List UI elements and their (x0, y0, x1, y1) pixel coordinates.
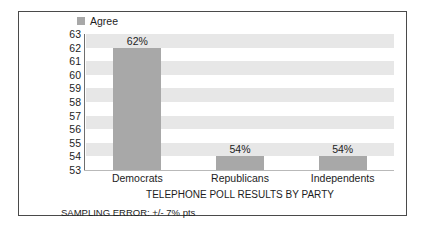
bar-value-label: 62% (127, 36, 148, 47)
legend-item-label: Agree (90, 16, 118, 27)
y-axis-tick: 60 (69, 70, 81, 81)
bar-independents[interactable] (319, 156, 367, 170)
y-axis-tick: 53 (69, 165, 81, 176)
bar-value-label: 54% (332, 144, 353, 155)
y-axis-tick: 54 (69, 151, 81, 162)
bar-democrats[interactable] (113, 48, 161, 170)
x-axis-baseline (84, 170, 394, 171)
agree-swatch-icon (77, 17, 85, 25)
x-axis-tick-democrats: Democrats (112, 173, 163, 184)
bars-layer: 62%54%54% (86, 34, 394, 170)
y-axis-tick: 63 (69, 29, 81, 40)
y-axis-tick: 56 (69, 124, 81, 135)
bar-republicans[interactable] (216, 156, 264, 170)
y-axis-tick: 59 (69, 83, 81, 94)
y-axis-tick: 61 (69, 56, 81, 67)
bar-value-label: 54% (229, 144, 250, 155)
x-axis-tick-independents: Independents (311, 173, 375, 184)
y-axis-tick: 62 (69, 42, 81, 53)
bar-slot (86, 34, 189, 170)
y-axis-tick-labels: 6362616059585756555453 (61, 34, 81, 170)
x-axis-tick-republicans: Republicans (211, 173, 269, 184)
chart-footnote: SAMPLING ERROR: +/- 7% pts (61, 208, 195, 218)
y-axis-tick: 58 (69, 97, 81, 108)
y-axis-tick: 55 (69, 138, 81, 149)
y-axis-tick: 57 (69, 110, 81, 121)
x-axis-tick-labels: DemocratsRepublicansIndependents (86, 173, 394, 189)
y-axis-line (84, 34, 85, 170)
chart-legend: Agree (77, 16, 118, 27)
chart-frame: Agree 6362616059585756555453 62%54%54% D… (18, 11, 407, 216)
x-axis-title: TELEPHONE POLL RESULTS BY PARTY (86, 190, 394, 200)
plot-wrapper: 6362616059585756555453 62%54%54% Democra… (61, 34, 394, 217)
